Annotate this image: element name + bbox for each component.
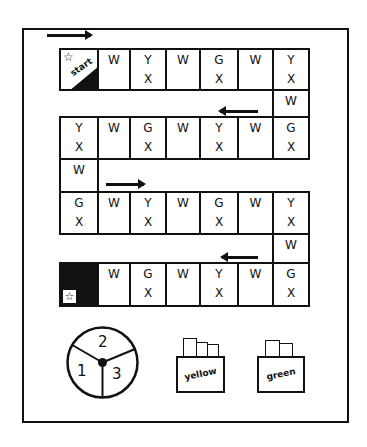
board-space[interactable]: YX [59,116,99,160]
board-space[interactable]: W [97,48,131,91]
spinner-section-1: 1 [77,362,87,380]
arrow-right-icon [106,183,144,186]
spinner[interactable]: 1 2 3 [65,325,140,400]
board-space[interactable]: YX [199,116,239,160]
board-space[interactable]: GX [272,116,310,160]
arrow-left-icon [220,110,258,113]
yellow-deck-label: yellow [177,364,223,383]
green-deck-label: green [258,365,303,384]
start-corner-shade [61,50,99,91]
start-space[interactable]: ☆ start [59,48,99,91]
board-space[interactable]: W [237,116,274,160]
arrow-right-icon [47,34,91,37]
yellow-card-deck[interactable]: yellow [176,356,225,393]
board-space[interactable]: W [97,191,131,235]
finish-space[interactable]: ☆ [59,262,99,307]
board-space[interactable]: W [165,262,201,307]
board-space[interactable]: GX [272,262,310,307]
board-space[interactable]: YX [129,48,167,91]
board-space[interactable]: GX [129,262,167,307]
board-space[interactable]: W [97,262,131,307]
board-space[interactable]: GX [129,116,167,160]
board-space[interactable]: W [165,48,201,91]
finish-star-box: ☆ [62,289,77,304]
arrow-left-icon [222,256,258,259]
board-space[interactable]: W [59,158,99,193]
board-space[interactable]: W [272,89,310,118]
board-space[interactable]: GX [199,191,239,235]
board-space[interactable]: GX [199,48,239,91]
board-space[interactable]: W [97,116,131,160]
board-space[interactable]: YX [272,48,310,91]
board-space[interactable]: W [237,48,274,91]
board-space[interactable]: W [165,116,201,160]
green-card-deck[interactable]: green [257,356,305,393]
board-space[interactable]: W [237,262,274,307]
star-icon: ☆ [65,290,75,303]
board-space[interactable]: YX [129,191,167,235]
board-space[interactable]: YX [272,191,310,235]
board-space[interactable]: W [237,191,274,235]
board-space[interactable]: W [272,233,310,264]
yellow-card [183,338,197,358]
spinner-section-3: 3 [112,365,122,383]
board-space[interactable]: GX [59,191,99,235]
board-space[interactable]: YX [199,262,239,307]
spinner-section-2: 2 [98,333,108,351]
board-space[interactable]: W [165,191,201,235]
